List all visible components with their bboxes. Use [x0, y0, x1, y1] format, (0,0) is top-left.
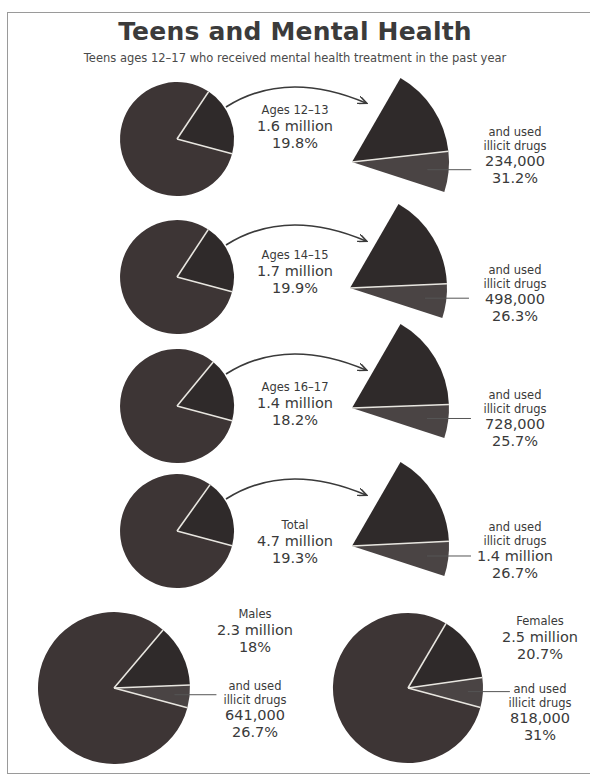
males-drug-label: and used illicit drugs 641,000 26.7%	[205, 680, 305, 741]
drug-pct: 26.3%	[470, 308, 560, 325]
group-count: 2.3 million	[205, 622, 305, 639]
drug-label-1: and used	[470, 126, 560, 140]
row-3-drug-label: and used illicit drugs 1.4 million 26.7%	[470, 521, 560, 582]
drug-count: 234,000	[470, 153, 560, 170]
drug-label-2: illicit drugs	[205, 694, 305, 708]
group-name: Ages 16–17	[240, 381, 350, 395]
drug-label-1: and used	[470, 389, 560, 403]
curved-arrow-icon	[226, 479, 366, 499]
row-3-group-label: Total 4.7 million 19.3%	[240, 519, 350, 567]
group-pct: 20.7%	[495, 646, 585, 663]
males-pie	[38, 612, 216, 764]
group-count: 1.4 million	[240, 395, 350, 412]
females-pie	[333, 613, 510, 763]
wedge-no-drugs-segment	[352, 462, 449, 546]
row-2-group-label: Ages 16–17 1.4 million 18.2%	[240, 381, 350, 429]
drug-pct: 26.7%	[470, 565, 560, 582]
curved-arrow-icon	[226, 225, 366, 245]
curved-arrow-icon	[226, 354, 366, 374]
drug-count: 728,000	[470, 416, 560, 433]
drug-label-1: and used	[470, 264, 560, 278]
row-2-drug-label: and used illicit drugs 728,000 25.7%	[470, 389, 560, 450]
group-count: 2.5 million	[495, 629, 585, 646]
drug-pct: 31%	[495, 727, 585, 744]
wedge-drugs-segment	[352, 405, 449, 439]
drug-label-1: and used	[495, 683, 585, 697]
drug-count: 1.4 million	[470, 548, 560, 565]
drug-pct: 26.7%	[205, 724, 305, 741]
group-name: Males	[205, 608, 305, 622]
row-1-drug-label: and used illicit drugs 498,000 26.3%	[470, 264, 560, 325]
group-pct: 18%	[205, 639, 305, 656]
drug-count: 498,000	[470, 291, 560, 308]
wedge-drugs-segment	[350, 284, 447, 318]
group-pct: 19.3%	[240, 550, 350, 567]
row-0-group-label: Ages 12–13 1.6 million 19.8%	[240, 104, 350, 152]
drug-pct: 25.7%	[470, 433, 560, 450]
group-name: Females	[495, 615, 585, 629]
drug-label-2: illicit drugs	[495, 697, 585, 711]
drug-pct: 31.2%	[470, 170, 560, 187]
drug-label-2: illicit drugs	[470, 535, 560, 549]
wedge-no-drugs-segment	[352, 324, 449, 408]
drug-label-1: and used	[205, 680, 305, 694]
group-name: Total	[240, 519, 350, 533]
wedge-drugs-segment	[352, 541, 449, 576]
males-group-label: Males 2.3 million 18%	[205, 608, 305, 656]
group-name: Ages 12–13	[240, 104, 350, 118]
drug-label-2: illicit drugs	[470, 278, 560, 292]
wedge-no-drugs-segment	[350, 204, 447, 288]
row-0-drug-label: and used illicit drugs 234,000 31.2%	[470, 126, 560, 187]
females-drug-label: and used illicit drugs 818,000 31%	[495, 683, 585, 744]
drug-count: 641,000	[205, 707, 305, 724]
drug-label-2: illicit drugs	[470, 403, 560, 417]
row-1-group-label: Ages 14–15 1.7 million 19.9%	[240, 249, 350, 297]
group-count: 4.7 million	[240, 533, 350, 550]
group-count: 1.7 million	[240, 263, 350, 280]
group-pct: 19.9%	[240, 280, 350, 297]
group-pct: 19.8%	[240, 135, 350, 152]
drug-label-2: illicit drugs	[470, 140, 560, 154]
drug-label-1: and used	[470, 521, 560, 535]
group-name: Ages 14–15	[240, 249, 350, 263]
group-count: 1.6 million	[240, 118, 350, 135]
group-pct: 18.2%	[240, 412, 350, 429]
drug-count: 818,000	[495, 710, 585, 727]
wedge-no-drugs-segment	[352, 78, 448, 162]
females-group-label: Females 2.5 million 20.7%	[495, 615, 585, 663]
